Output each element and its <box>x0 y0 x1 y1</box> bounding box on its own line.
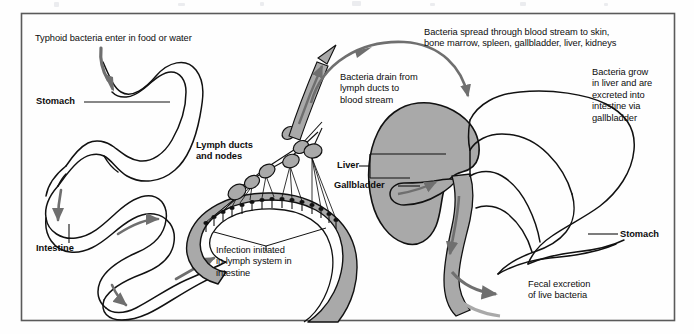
grow-line-3: excreted into <box>592 90 652 101</box>
label-stomach-left: Stomach <box>36 96 75 107</box>
spread-line-1: Bacteria spread through blood stream to … <box>424 27 616 38</box>
label-stomach-right: Stomach <box>620 229 659 240</box>
figure-root: Typhoid bacteria enter in food or water … <box>0 0 694 334</box>
infection-line-3: intestine <box>216 268 292 279</box>
lymph-line-2: and nodes <box>196 151 253 162</box>
label-infection-initiated: Infection initiated in lymph system in i… <box>216 245 292 279</box>
label-entry: Typhoid bacteria enter in food or water <box>35 33 192 44</box>
label-bacteria-grow: Bacteria grow in liver and are excreted … <box>592 67 652 124</box>
grow-line-4: intestine via <box>592 101 652 112</box>
label-intestine: Intestine <box>36 243 74 254</box>
grow-line-5: gallbladder <box>592 113 652 124</box>
drain-line-2: lymph ducts to <box>340 83 418 94</box>
lymph-line-1: Lymph ducts <box>196 140 253 151</box>
fecal-line-1: Fecal excretion <box>528 279 590 290</box>
label-lymph-ducts-and-nodes: Lymph ducts and nodes <box>196 140 253 163</box>
drain-line-1: Bacteria drain from <box>340 72 418 83</box>
infection-line-1: Infection initiated <box>216 245 292 256</box>
grow-line-2: in liver and are <box>592 78 652 89</box>
grow-line-1: Bacteria grow <box>592 67 652 78</box>
drain-line-3: blood stream <box>340 95 418 106</box>
label-bacteria-drain: Bacteria drain from lymph ducts to blood… <box>340 72 418 106</box>
spread-line-2: bone marrow, spleen, gallbladder, liver,… <box>424 38 616 49</box>
infection-line-2: in lymph system in <box>216 256 292 267</box>
label-bacteria-spread: Bacteria spread through blood stream to … <box>424 27 616 50</box>
label-gallbladder: Gallbladder <box>334 180 385 191</box>
label-liver: Liver <box>337 160 359 171</box>
label-fecal-excretion: Fecal excretion of live bacteria <box>528 279 590 302</box>
fecal-line-2: of live bacteria <box>528 290 590 301</box>
